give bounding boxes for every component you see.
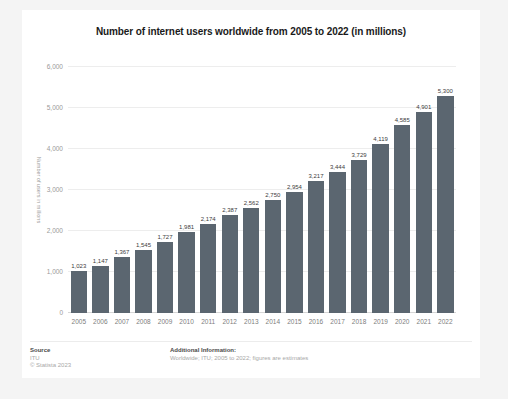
y-axis-tick-label: 3,000 — [47, 186, 63, 193]
chart-card: Number of internet users worldwide from … — [22, 10, 480, 378]
chart-title: Number of internet users worldwide from … — [22, 26, 480, 37]
bar-value-label: 5,300 — [435, 88, 457, 94]
bar-value-label: 1,981 — [176, 224, 198, 230]
bar-2017[interactable] — [329, 172, 345, 313]
y-axis-tick-label: 0 — [59, 309, 63, 316]
bar-slot[interactable]: 1,367 — [111, 67, 133, 313]
bar-slot[interactable]: 1,147 — [90, 67, 112, 313]
x-axis-tick-label-2015: 2015 — [284, 318, 306, 325]
y-axis-title: Number of users in millions — [34, 67, 44, 313]
bar-value-label: 3,217 — [305, 173, 327, 179]
x-axis-tick-label-2012: 2012 — [219, 318, 241, 325]
bar-slot[interactable]: 2,954 — [284, 67, 306, 313]
bar-series: 1,0231,1471,3671,5451,7271,9812,1742,387… — [68, 67, 456, 313]
bar-value-label: 2,174 — [197, 216, 219, 222]
bar-2014[interactable] — [265, 200, 281, 313]
bar-value-label: 2,562 — [241, 200, 263, 206]
bar-value-label: 3,444 — [327, 164, 349, 170]
bar-slot[interactable]: 2,174 — [197, 67, 219, 313]
bar-2021[interactable] — [416, 112, 432, 313]
bar-2009[interactable] — [157, 242, 173, 313]
bar-value-label: 1,367 — [111, 249, 133, 255]
y-axis-tick-label: 4,000 — [47, 145, 63, 152]
notes-heading: Additional Information: — [170, 347, 472, 353]
x-axis-tick-label-2006: 2006 — [90, 318, 112, 325]
x-axis-tick-label-2008: 2008 — [133, 318, 155, 325]
bar-slot[interactable]: 2,387 — [219, 67, 241, 313]
bar-slot[interactable]: 1,981 — [176, 67, 198, 313]
footer-notes-block: Additional Information: Worldwide; ITU; … — [170, 347, 472, 369]
x-axis-tick-label-2017: 2017 — [327, 318, 349, 325]
y-axis-tick-label: 6,000 — [47, 63, 63, 70]
bar-2005[interactable] — [71, 271, 87, 313]
footer-source-block: Source ITU © Statista 2023 — [30, 347, 170, 369]
chart-footer: Source ITU © Statista 2023 Additional In… — [30, 347, 472, 369]
x-axis-tick-label-2021: 2021 — [413, 318, 435, 325]
y-axis-tick-label: 5,000 — [47, 104, 63, 111]
x-axis-tick-label-2013: 2013 — [241, 318, 263, 325]
notes-text: Worldwide; ITU; 2005 to 2022; figures ar… — [170, 355, 472, 361]
bar-slot[interactable]: 5,300 — [435, 67, 457, 313]
plot-area: 01,0002,0003,0004,0005,0006,000 1,0231,1… — [68, 67, 456, 313]
bar-slot[interactable]: 1,545 — [133, 67, 155, 313]
x-axis-tick-label-2022: 2022 — [435, 318, 457, 325]
chart-page: Number of internet users worldwide from … — [0, 0, 508, 399]
copyright-text: © Statista 2023 — [30, 362, 170, 368]
x-axis-tick-label-2009: 2009 — [154, 318, 176, 325]
bar-2015[interactable] — [286, 192, 302, 313]
bar-value-label: 3,729 — [348, 152, 370, 158]
x-axis-tick-label-2020: 2020 — [391, 318, 413, 325]
bar-value-label: 2,750 — [262, 192, 284, 198]
bar-2012[interactable] — [222, 215, 238, 313]
bar-2022[interactable] — [437, 96, 453, 313]
bar-slot[interactable]: 3,444 — [327, 67, 349, 313]
bar-2020[interactable] — [394, 125, 410, 313]
x-axis-tick-label-2019: 2019 — [370, 318, 392, 325]
bar-value-label: 1,545 — [133, 242, 155, 248]
x-axis-tick-label-2005: 2005 — [68, 318, 90, 325]
bar-value-label: 1,147 — [90, 258, 112, 264]
x-axis-tick-label-2014: 2014 — [262, 318, 284, 325]
bar-slot[interactable]: 4,119 — [370, 67, 392, 313]
bar-value-label: 2,954 — [284, 184, 306, 190]
bar-value-label: 4,901 — [413, 104, 435, 110]
footer-divider — [30, 341, 472, 342]
bar-value-label: 2,387 — [219, 207, 241, 213]
source-name: ITU — [30, 355, 170, 361]
bar-2013[interactable] — [243, 208, 259, 313]
bar-slot[interactable]: 2,750 — [262, 67, 284, 313]
source-heading: Source — [30, 347, 170, 353]
bar-2010[interactable] — [178, 232, 194, 313]
bar-slot[interactable]: 3,217 — [305, 67, 327, 313]
x-axis-tick-labels: 2005200620072008200920102011201220132014… — [68, 318, 456, 325]
bar-slot[interactable]: 3,729 — [348, 67, 370, 313]
x-axis-tick-label-2007: 2007 — [111, 318, 133, 325]
bar-slot[interactable]: 4,901 — [413, 67, 435, 313]
bar-slot[interactable]: 1,727 — [154, 67, 176, 313]
bar-value-label: 4,119 — [370, 136, 392, 142]
bar-2008[interactable] — [135, 250, 151, 313]
bar-value-label: 4,585 — [391, 117, 413, 123]
bar-slot[interactable]: 4,585 — [391, 67, 413, 313]
bar-2016[interactable] — [308, 181, 324, 313]
y-axis-tick-label: 2,000 — [47, 227, 63, 234]
bar-2007[interactable] — [114, 257, 130, 313]
bar-2018[interactable] — [351, 160, 367, 313]
bar-value-label: 1,727 — [154, 234, 176, 240]
bar-2006[interactable] — [92, 266, 108, 313]
bar-2019[interactable] — [372, 144, 388, 313]
x-axis-tick-label-2010: 2010 — [176, 318, 198, 325]
y-axis-tick-label: 1,000 — [47, 268, 63, 275]
x-axis-tick-label-2011: 2011 — [197, 318, 219, 325]
bar-2011[interactable] — [200, 224, 216, 313]
x-axis-tick-label-2016: 2016 — [305, 318, 327, 325]
bar-value-label: 1,023 — [68, 263, 90, 269]
bar-slot[interactable]: 1,023 — [68, 67, 90, 313]
x-axis-tick-label-2018: 2018 — [348, 318, 370, 325]
bar-slot[interactable]: 2,562 — [241, 67, 263, 313]
